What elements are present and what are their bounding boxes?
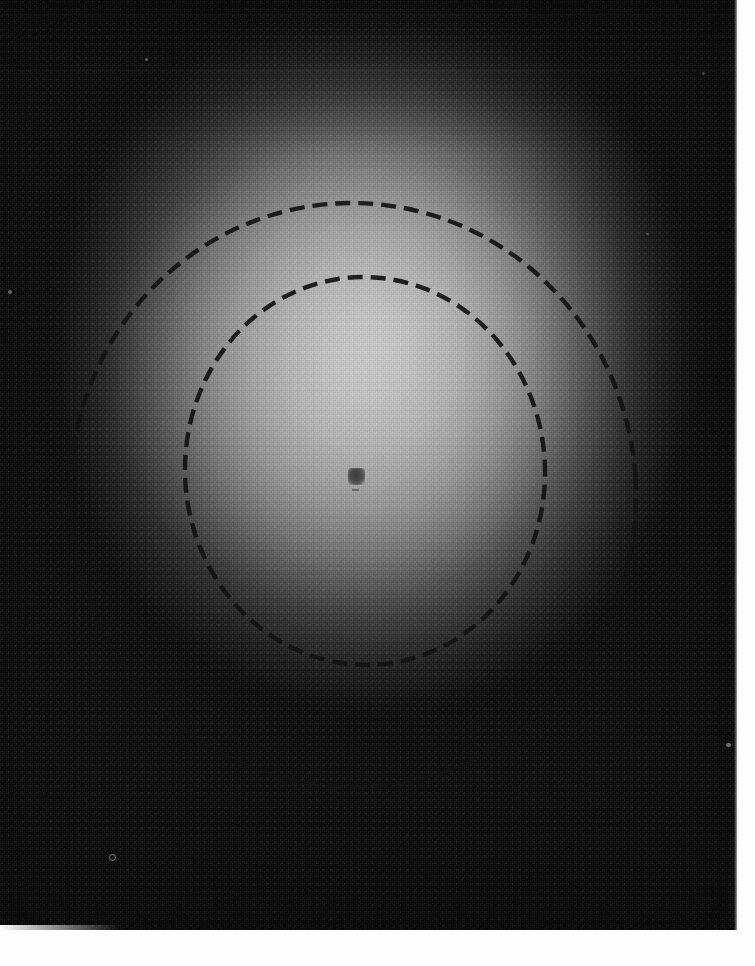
halo-secondary-lobe [0, 0, 738, 931]
emulsion-area [0, 0, 738, 931]
scanned-plate-image: Scanned photographic plate with annotate… [0, 0, 755, 966]
central-dark-spot-tail [352, 489, 359, 491]
paper-margin-bottom [0, 930, 755, 966]
central-dark-spot [348, 468, 365, 485]
paper-margin-right [737, 0, 755, 966]
